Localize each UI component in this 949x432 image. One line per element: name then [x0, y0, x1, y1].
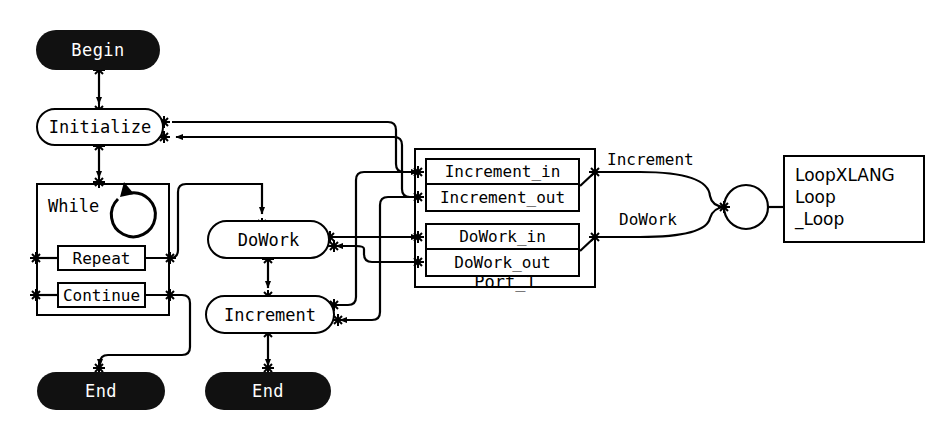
node-increment-label: Increment [224, 305, 316, 325]
node-begin[interactable]: Begin [36, 30, 160, 70]
wire-port-initialize-top [172, 122, 418, 172]
node-initialize-label: Initialize [49, 117, 151, 137]
port-dowork-in-label: DoWork_in [459, 227, 546, 246]
node-repeat[interactable]: Repeat [57, 245, 146, 271]
port-dowork-out-label: DoWork_out [454, 253, 550, 272]
port-increment-in[interactable]: Increment_in [425, 158, 580, 185]
wire-increment-port-in [334, 172, 418, 305]
service-line-3: _Loop [795, 209, 923, 231]
node-end-left-label: End [85, 381, 117, 401]
node-end-left[interactable]: End [37, 372, 165, 410]
node-continue-label: Continue [63, 286, 140, 305]
wire-port-initialize-return [176, 137, 418, 197]
service-line-2: Loop [795, 187, 923, 209]
node-dowork[interactable]: DoWork [207, 220, 330, 259]
diagram-canvas: Begin Initialize While Repeat Continue E… [0, 0, 949, 432]
wire-port-out-increment [340, 197, 418, 320]
node-end-middle-label: End [252, 381, 284, 401]
edge-label-increment: Increment [607, 150, 694, 169]
port-increment-out-label: Increment_out [440, 188, 565, 207]
node-dowork-label: DoWork [238, 230, 299, 250]
node-end-middle[interactable]: End [205, 372, 331, 410]
service-loopxlang[interactable]: LoopXLANG Loop _Loop [783, 155, 925, 243]
node-repeat-label: Repeat [73, 249, 131, 268]
node-initialize[interactable]: Initialize [36, 108, 164, 146]
port-increment-in-label: Increment_in [445, 162, 561, 181]
service-line-1: LoopXLANG [795, 165, 923, 187]
port-dowork-in[interactable]: DoWork_in [425, 223, 580, 250]
wire-port-increment-hub [595, 172, 724, 207]
node-increment[interactable]: Increment [205, 295, 335, 334]
node-continue[interactable]: Continue [57, 282, 146, 308]
wire-port-out-dowork [336, 246, 418, 262]
edge-label-dowork: DoWork [619, 210, 677, 229]
group-port-1-label: Port_1 [414, 272, 596, 292]
node-begin-label: Begin [71, 40, 125, 60]
connector-hub-circle [724, 185, 768, 229]
group-while-label: While [48, 196, 99, 216]
port-increment-out[interactable]: Increment_out [425, 185, 580, 212]
